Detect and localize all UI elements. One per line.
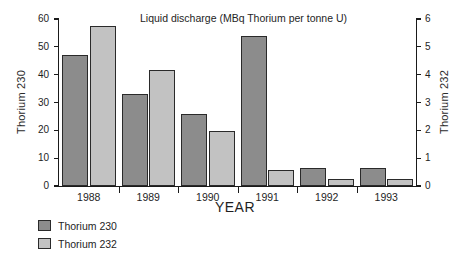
bar-thorium-232 (149, 70, 175, 186)
bar-thorium-232 (268, 170, 294, 186)
legend-swatch-icon (38, 238, 51, 249)
bar-thorium-230 (62, 55, 88, 186)
y-tick-right (416, 158, 421, 159)
y-tick-label-right: 1 (425, 152, 447, 163)
y-tick-right (416, 74, 421, 75)
y-tick-right (416, 46, 421, 47)
legend-label: Thorium 232 (58, 238, 117, 250)
chart-legend: Thorium 230Thorium 232 (38, 218, 117, 254)
bar-thorium-230 (300, 168, 326, 186)
y-tick-label-left: 60 (27, 13, 49, 24)
y-tick-right (416, 185, 421, 186)
bar-thorium-230 (360, 168, 386, 186)
legend-item: Thorium 232 (38, 236, 117, 251)
y-tick-label-left: 20 (27, 124, 49, 135)
y-tick-label-right: 0 (425, 180, 447, 191)
bar-thorium-230 (241, 36, 267, 186)
y-tick-label-right: 6 (425, 13, 447, 24)
bar-thorium-232 (387, 179, 413, 186)
bar-thorium-232 (209, 131, 235, 186)
y-tick-label-left: 0 (27, 180, 49, 191)
bar-thorium-230 (122, 94, 148, 186)
y-tick-label-right: 5 (425, 41, 447, 52)
y-tick-label-right: 2 (425, 124, 447, 135)
y-tick-label-left: 30 (27, 97, 49, 108)
plot-area (59, 19, 416, 186)
y-tick-label-left: 40 (27, 69, 49, 80)
y-tick-label-left: 50 (27, 41, 49, 52)
legend-label: Thorium 230 (58, 220, 117, 232)
y-axis-left-title: Thorium 230 (15, 42, 27, 162)
y-tick-right (416, 18, 421, 19)
y-tick-label-right: 3 (425, 97, 447, 108)
bar-thorium-232 (328, 179, 354, 186)
y-tick-right (416, 102, 421, 103)
bar-thorium-230 (181, 114, 207, 186)
y-tick-right (416, 130, 421, 131)
y-tick-label-right: 4 (425, 69, 447, 80)
legend-swatch-icon (38, 220, 51, 231)
x-axis-title: YEAR (45, 199, 425, 215)
y-tick-label-left: 10 (27, 152, 49, 163)
bar-chart: Thorium 230 Thorium 232 Liquid discharge… (0, 0, 465, 263)
bar-thorium-232 (90, 26, 116, 186)
legend-item: Thorium 230 (38, 218, 117, 233)
